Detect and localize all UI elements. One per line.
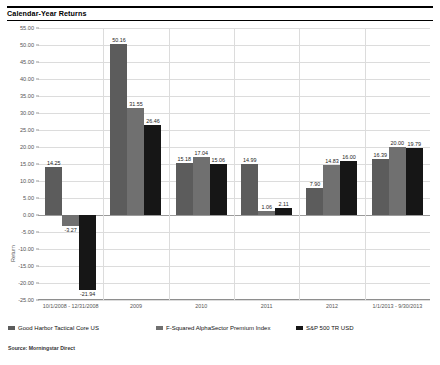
y-axis-tick-label: -5.00 xyxy=(21,229,34,235)
bar: 16.00 xyxy=(340,161,357,215)
bar-group: 14.991.062.11 xyxy=(234,28,299,300)
y-axis-tick-label: 45.00 xyxy=(20,59,34,65)
y-axis-tick-label: 10.00 xyxy=(20,178,34,184)
y-axis-tick-label: 25.00 xyxy=(20,127,34,133)
bar-value-label: 17.04 xyxy=(195,150,209,156)
x-axis-tick-label: 2012 xyxy=(326,303,338,309)
bar: 15.18 xyxy=(176,163,193,215)
bar-group: 15.1817.0415.06 xyxy=(169,28,234,300)
y-axis-tick-label: 15.00 xyxy=(20,161,34,167)
bar: 15.06 xyxy=(210,164,227,215)
y-axis-tick-label: 35.00 xyxy=(20,93,34,99)
legend-item: S&P 500 TR USD xyxy=(296,325,353,331)
gridline xyxy=(38,300,430,301)
x-axis-tick-label: 10/1/2008 - 12/31/2008 xyxy=(43,303,99,309)
bar-value-label: 15.06 xyxy=(212,157,226,163)
source-note: Source: Morningstar Direct xyxy=(8,345,75,351)
bar-value-label: 7.90 xyxy=(310,181,321,187)
bar-value-label: 16.39 xyxy=(374,152,388,158)
bar-value-label: 15.18 xyxy=(178,156,192,162)
y-axis-tick-label: 5.00 xyxy=(23,195,34,201)
bar-value-label: 1.06 xyxy=(261,204,272,210)
legend-item: Good Harbor Tactical Core US xyxy=(8,325,99,331)
bar: 14.99 xyxy=(241,164,258,215)
y-axis-tick-label: -10.00 xyxy=(18,246,34,252)
x-axis-tick-label: 1/1/2013 - 9/30/2013 xyxy=(372,303,422,309)
legend-label: S&P 500 TR USD xyxy=(306,325,353,331)
x-axis-tick-label: 2011 xyxy=(261,303,273,309)
legend-label: F-Squared AlphaSector Premium Index xyxy=(166,325,270,331)
y-axis-tick-label: 20.00 xyxy=(20,144,34,150)
legend-item: F-Squared AlphaSector Premium Index xyxy=(156,325,270,331)
page-title: Calendar-Year Returns xyxy=(7,9,87,18)
legend-swatch-icon xyxy=(296,326,303,330)
bar-value-label: 31.55 xyxy=(129,101,143,107)
x-axis-tick-label: 2009 xyxy=(130,303,142,309)
y-axis-tick-label: -25.00 xyxy=(18,297,34,303)
bar: 16.39 xyxy=(372,159,389,215)
bar-value-label: 50.16 xyxy=(112,37,126,43)
legend-swatch-icon xyxy=(8,326,15,330)
y-axis-tick-label: 50.00 xyxy=(20,42,34,48)
bar-value-label: 14.99 xyxy=(243,157,257,163)
bar-value-label: 16.00 xyxy=(342,154,356,160)
bar: 20.00 xyxy=(389,147,406,215)
bar-group: 50.1631.5526.46 xyxy=(103,28,168,300)
bar: 50.16 xyxy=(110,44,127,215)
bar-value-label: -21.94 xyxy=(80,291,95,297)
chart-legend: Good Harbor Tactical Core USF-Squared Al… xyxy=(8,325,432,337)
y-axis-tick-label: 55.00 xyxy=(20,25,34,31)
bar-value-label: 19.79 xyxy=(408,141,422,147)
bar: 14.83 xyxy=(323,165,340,215)
y-axis-tick-label: 30.00 xyxy=(20,110,34,116)
y-axis-tick-label: 0.00 xyxy=(23,212,34,218)
legend-swatch-icon xyxy=(156,326,163,330)
bar-value-label: -3.27 xyxy=(65,227,77,233)
bar-group: 7.9014.8316.00 xyxy=(299,28,364,300)
bar-value-label: 26.46 xyxy=(146,118,160,124)
title-top-rule xyxy=(7,6,433,8)
bar-value-label: 14.83 xyxy=(325,158,339,164)
calendar-year-returns-chart: 55.0050.0045.0040.0035.0030.0025.0020.00… xyxy=(38,28,430,300)
bar: 26.46 xyxy=(144,125,161,215)
legend-label: Good Harbor Tactical Core US xyxy=(18,325,99,331)
y-axis-tick-label: -20.00 xyxy=(18,280,34,286)
bar: 31.55 xyxy=(127,108,144,215)
bar: -21.94 xyxy=(79,215,96,290)
bar: 7.90 xyxy=(306,188,323,215)
bar-value-label: 2.11 xyxy=(279,201,289,207)
title-bottom-rule xyxy=(7,20,433,21)
bar: -3.27 xyxy=(62,215,79,226)
x-axis-tick-label: 2010 xyxy=(195,303,207,309)
bar-group: 14.25-3.27-21.94 xyxy=(38,28,103,300)
y-axis-tick-label: -15.00 xyxy=(18,263,34,269)
bar: 2.11 xyxy=(275,208,292,215)
bar: 17.04 xyxy=(193,157,210,215)
bar-value-label: 20.00 xyxy=(391,140,405,146)
bar: 14.25 xyxy=(45,167,62,215)
bar-value-label: 14.25 xyxy=(47,160,61,166)
bar-group: 16.3920.0019.79 xyxy=(365,28,430,300)
y-axis-title: Return xyxy=(10,245,16,262)
bar: 19.79 xyxy=(406,148,423,215)
bar: 1.06 xyxy=(258,211,275,215)
y-axis-tick-label: 40.00 xyxy=(20,76,34,82)
